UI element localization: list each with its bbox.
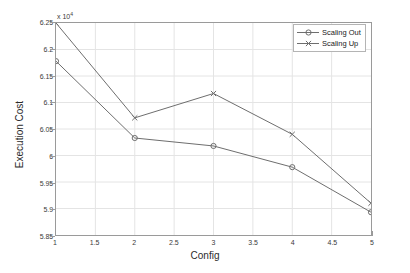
y-axis-tick-mark — [50, 236, 55, 237]
y-axis-title: Execution Cost — [14, 75, 25, 195]
x-axis-title: Config — [0, 250, 410, 261]
legend-label: Scaling Up — [322, 39, 358, 48]
x-axis-tick-mark — [372, 231, 373, 236]
x-marker — [297, 38, 319, 49]
x-axis-tick-label: 1.5 — [90, 239, 100, 246]
x-axis-tick-label: 4.5 — [328, 239, 338, 246]
x-axis-tick-label: 5 — [370, 239, 374, 246]
x-axis-tick-label: 3.5 — [248, 239, 258, 246]
x-axis-tick-label: 1 — [53, 239, 57, 246]
data-layer — [56, 23, 371, 235]
legend[interactable]: Scaling OutScaling Up — [293, 24, 366, 52]
y-axis-exponent-label: x 104 — [57, 11, 73, 20]
x-axis-tick-label: 4 — [291, 239, 295, 246]
legend-item[interactable]: Scaling Out — [297, 27, 361, 38]
circle-marker — [297, 27, 319, 38]
data-point-circle-marker — [306, 30, 311, 35]
legend-label: Scaling Out — [322, 28, 361, 37]
legend-item[interactable]: Scaling Up — [297, 38, 361, 49]
plot-area — [55, 22, 372, 236]
x-axis-tick-label: 2.5 — [169, 239, 179, 246]
x-axis-tick-label: 2 — [132, 239, 136, 246]
figure-canvas: x 104 Execution Cost Config 5.855.95.956… — [0, 0, 410, 273]
x-axis-tick-label: 3 — [212, 239, 216, 246]
series-line — [56, 61, 371, 212]
